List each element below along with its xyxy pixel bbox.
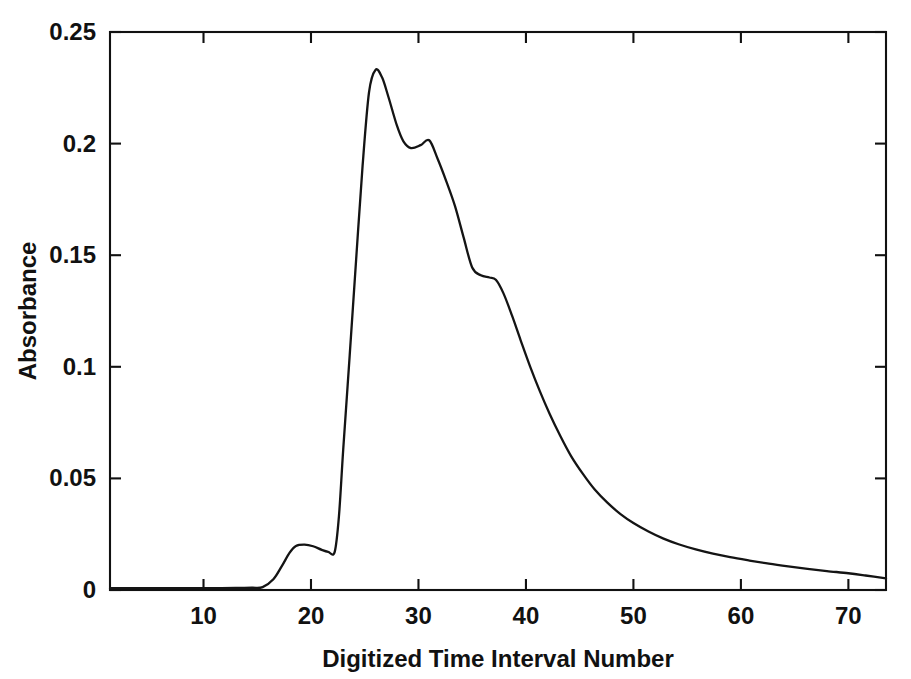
y-tick-label: 0 [83,576,96,603]
x-tick-label: 70 [835,602,862,629]
x-axis-tick-labels: 10203040506070 [190,602,862,629]
x-tick-label: 40 [513,602,540,629]
y-tick-label: 0.05 [49,464,96,491]
y-axis-tick-labels: 00.050.10.150.20.25 [49,18,96,603]
y-tick-label: 0.25 [49,18,96,45]
x-tick-label: 30 [405,602,432,629]
plot-frame [110,32,886,590]
x-tick-label: 60 [728,602,755,629]
x-tick-label: 20 [298,602,325,629]
y-tick-label: 0.15 [49,241,96,268]
absorbance-line-chart: 10203040506070 00.050.10.150.20.25 Digit… [0,0,911,679]
x-axis-title: Digitized Time Interval Number [322,645,674,672]
y-tick-label: 0.1 [63,353,96,380]
y-axis-title: Absorbance [14,242,41,381]
chart-figure: 10203040506070 00.050.10.150.20.25 Digit… [0,0,911,679]
data-series-absorbance [110,69,886,588]
y-tick-label: 0.2 [63,130,96,157]
x-tick-label: 50 [620,602,647,629]
x-tick-label: 10 [190,602,217,629]
tick-marks-group [110,32,886,590]
